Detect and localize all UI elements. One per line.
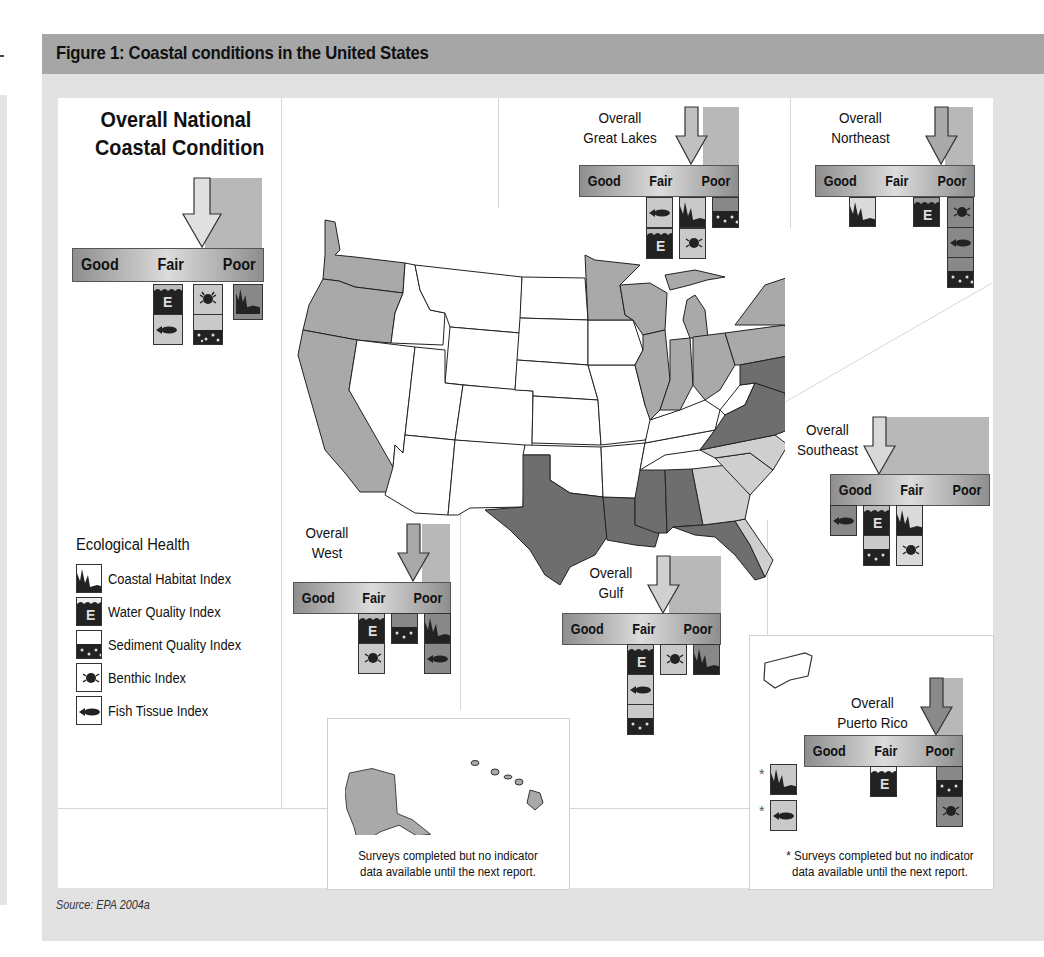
scale-fair: Fair — [901, 482, 924, 498]
benthic-icon — [193, 284, 223, 315]
legend-item: Fish Tissue Index — [76, 694, 253, 727]
state-michigan — [665, 270, 725, 338]
puerto-rico-map — [760, 648, 820, 693]
state-iowa — [588, 320, 643, 365]
benthic-icon — [660, 644, 687, 675]
state-wyoming — [445, 327, 520, 390]
great-lakes-title-line2: Great Lakes — [575, 128, 665, 148]
southeast-title-line2: Southeast — [794, 440, 862, 460]
coastal-habitat-icon — [849, 197, 876, 227]
water-quality-icon: E — [153, 284, 183, 315]
state-colorado — [455, 385, 533, 447]
condition-scale-bar: Good Fair Poor — [804, 735, 963, 767]
sediment-quality-icon — [193, 314, 223, 345]
divider-diagonal — [780, 280, 995, 410]
no-data-asterisk: * — [759, 803, 764, 819]
svg-text:E: E — [368, 623, 377, 639]
coastal-habitat-icon — [679, 197, 706, 228]
legend-label: Fish Tissue Index — [108, 703, 208, 719]
scale-good: Good — [571, 621, 604, 637]
coastal-habitat-icon — [233, 284, 263, 320]
scale-fair: Fair — [157, 256, 183, 274]
benthic-icon — [896, 535, 923, 566]
scale-poor: Poor — [414, 590, 443, 606]
condition-scale-bar: Good Fair Poor — [830, 474, 990, 506]
coastal-habitat-icon — [424, 613, 451, 644]
water-quality-icon: E — [627, 644, 654, 675]
puerto-rico-note-line2: data available until the next report. — [779, 864, 981, 880]
water-quality-icon: E — [863, 505, 890, 536]
down-arrow-icon — [674, 106, 710, 166]
down-arrow-icon — [396, 523, 432, 583]
northeast-title-line2: Northeast — [822, 128, 899, 148]
condition-scale-bar: Good Fair Poor — [293, 582, 451, 614]
coastal-habitat-icon — [770, 764, 797, 795]
scale-good: Good — [302, 590, 335, 606]
fish-tissue-icon — [830, 505, 857, 536]
sediment-quality-icon — [627, 704, 654, 735]
scale-poor: Poor — [926, 743, 955, 759]
state-mississippi — [635, 470, 667, 533]
scale-fair: Fair — [650, 173, 673, 189]
fish-tissue-icon — [947, 227, 974, 258]
scale-fair: Fair — [632, 621, 655, 637]
figure-title: Figure 1: Coastal conditions in the Unit… — [56, 42, 429, 64]
page-edge-mark — [0, 55, 4, 57]
fish-tissue-icon — [153, 314, 183, 345]
benthic-icon — [936, 796, 963, 827]
scale-good: Good — [824, 173, 857, 189]
scale-good: Good — [813, 743, 846, 759]
sediment-quality-icon — [391, 613, 418, 644]
gulf-title-line2: Gulf — [583, 583, 639, 603]
national-title-line2: Coastal Condition — [95, 134, 257, 162]
down-arrow-icon — [924, 106, 960, 166]
puerto-rico-note-line1: * Surveys completed but no indicator — [779, 848, 981, 864]
state-kansas — [532, 396, 601, 445]
down-arrow-icon — [862, 416, 898, 476]
state-arizona — [385, 435, 455, 515]
condition-scale-bar: Good Fair Poor — [815, 165, 975, 197]
figure-title-bar: Figure 1: Coastal conditions in the Unit… — [42, 34, 1044, 74]
divider — [498, 98, 499, 208]
legend-title: Ecological Health — [76, 536, 239, 554]
gulf-title-line1: Overall — [583, 563, 639, 583]
national-title-line1: Overall National — [95, 106, 257, 134]
fish-tissue-icon — [646, 197, 673, 228]
fish-tissue-icon — [76, 696, 102, 725]
sediment-quality-icon — [712, 197, 739, 228]
coastal-habitat-icon — [76, 564, 102, 593]
water-quality-icon: E — [76, 597, 102, 626]
fish-tissue-icon — [424, 643, 451, 674]
figure-source: Source: EPA 2004a — [56, 898, 150, 912]
svg-text:E: E — [880, 776, 889, 792]
us-map — [295, 215, 785, 585]
hawaii-islands — [471, 761, 543, 811]
coastal-habitat-icon — [693, 644, 720, 675]
fish-tissue-icon — [627, 674, 654, 705]
legend-item: Benthic Index — [76, 661, 253, 694]
legend: Ecological Health Coastal Habitat Index … — [76, 536, 253, 727]
state-north-dakota — [520, 277, 588, 320]
condition-scale-bar: Good Fair Poor — [562, 613, 721, 645]
west-title-line2: West — [299, 543, 355, 563]
scale-fair: Fair — [874, 743, 897, 759]
puerto-rico-title-line1: Overall — [834, 693, 911, 713]
divider — [568, 808, 750, 809]
legend-label: Benthic Index — [108, 670, 186, 686]
divider — [281, 98, 282, 808]
scale-good: Good — [81, 256, 119, 274]
sediment-quality-icon — [863, 535, 890, 566]
puerto-rico-title-line2: Puerto Rico — [834, 713, 911, 733]
condition-scale-bar: Good Fair Poor — [579, 165, 739, 197]
water-quality-icon: E — [870, 766, 897, 797]
scale-fair: Fair — [363, 590, 386, 606]
alaska-hawaii-map — [345, 755, 555, 835]
scale-fair: Fair — [886, 173, 909, 189]
condition-scale-bar: Good Fair Poor — [72, 248, 264, 282]
legend-item: Sediment Quality Index — [76, 628, 253, 661]
svg-text:E: E — [923, 207, 932, 223]
scale-poor: Poor — [222, 256, 255, 274]
sediment-quality-icon — [947, 257, 974, 288]
svg-text:E: E — [656, 238, 665, 254]
scale-poor: Poor — [938, 173, 967, 189]
